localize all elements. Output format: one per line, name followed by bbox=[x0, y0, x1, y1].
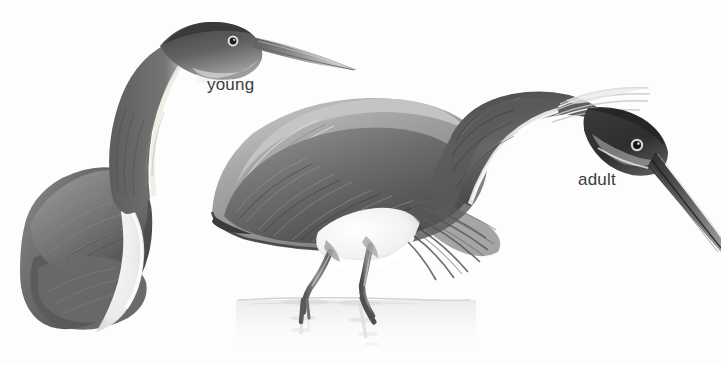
adult-heron-figure bbox=[212, 87, 721, 322]
water-scene bbox=[236, 298, 476, 346]
adult-label: adult bbox=[578, 170, 616, 190]
bird-illustration-plate: young adult bbox=[0, 0, 721, 365]
young-label: young bbox=[207, 75, 254, 95]
